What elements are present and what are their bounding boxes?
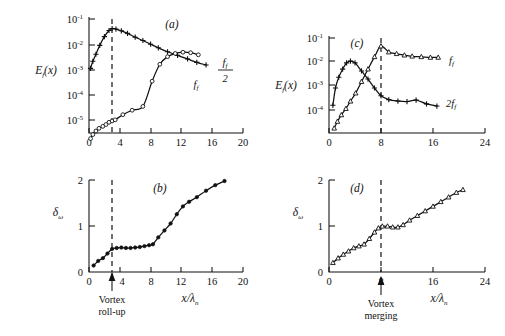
panel-a-ytick-1: 10-2: [67, 39, 84, 51]
panel-b-ytick-1: 1: [78, 221, 83, 232]
panel-d-ylabel: δω: [293, 206, 303, 221]
panel-b-ylabel: δω: [53, 206, 63, 221]
panel-c-x-ticks: [329, 128, 485, 133]
panel-b-xtick-3: 12: [176, 276, 187, 287]
panel-c-ylabel: Ef(x): [274, 79, 297, 94]
panel-a-ytick-4: 10-5: [67, 114, 84, 126]
panel-d-y-ticks: [329, 180, 335, 226]
panel-b-annotation-line2: roll-up: [98, 306, 125, 317]
panel-b-xtick-5: 20: [238, 276, 249, 287]
panel-b-ytick-0: 0: [78, 267, 83, 278]
panel-a-xtick-5: 20: [238, 137, 249, 148]
panel-a-svg: 10-1 10-2 10-3 10-4 10-5 Ef(x) 0 4 8 12 …: [0, 0, 253, 160]
panel-c-ytick-3: 10-4: [307, 104, 324, 116]
panel-b-svg: 2 1 0 δω 0 4 8 12 16 20 (b): [0, 160, 253, 336]
panel-b-ytick-2: 2: [78, 175, 83, 186]
panel-d-annotation-line1: Vortex: [368, 298, 394, 309]
panel-a-label-ff-over-2: ff 2: [218, 57, 233, 84]
panel-d-xtick-0: 0: [326, 276, 331, 287]
panel-a-id: (a): [165, 18, 179, 31]
figure-root: 10-1 10-2 10-3 10-4 10-5 Ef(x) 0 4 8 12 …: [0, 0, 505, 336]
panel-d-annotation-line2: merging: [364, 310, 397, 321]
panel-b-xlabel: x/λn: [181, 292, 199, 307]
panel-d-ytick-0: 0: [318, 267, 323, 278]
panel-c-ytick-0: 10-1: [307, 32, 324, 44]
panel-c-label-ff: ff: [449, 55, 455, 68]
panel-c-label-2ff: 2ff: [446, 98, 457, 111]
panel-c-ytick-1: 10-2: [307, 55, 324, 67]
panel-b-y-ticks: [89, 180, 95, 226]
panel-b-id: (b): [153, 182, 167, 195]
panel-a-xtick-3: 12: [176, 137, 187, 148]
panel-a-xtick-1: 4: [117, 137, 123, 148]
panel-d-svg: 2 1 0 δω 0 8 16 24 (d) Vo: [253, 160, 505, 336]
panel-d-xlabel: x/λn: [430, 292, 448, 307]
panel-b-annotation-line1: Vortex: [99, 294, 125, 305]
panel-d-series: [331, 187, 466, 264]
panel-b-xtick-4: 16: [207, 276, 218, 287]
panel-a-ylabel: Ef(x): [34, 64, 57, 79]
panel-a: 10-1 10-2 10-3 10-4 10-5 Ef(x) 0 4 8 12 …: [0, 0, 253, 160]
panel-d-id: (d): [350, 182, 364, 195]
panel-a-ytick-0: 10-1: [67, 13, 84, 25]
panel-c-series-2ff: [330, 58, 439, 108]
panel-a-y-ticks: [89, 19, 95, 120]
panel-a-series-ff2: [88, 26, 209, 71]
panel-a-series-ff: [89, 50, 201, 140]
panel-b: 2 1 0 δω 0 4 8 12 16 20 (b): [0, 160, 253, 336]
panel-b-xtick-1: 4: [119, 276, 125, 287]
panel-c-xtick-2: 16: [428, 137, 439, 148]
panel-a-ytick-2: 10-3: [67, 64, 84, 76]
panel-b-xtick-0: 0: [86, 276, 91, 287]
panel-b-vortex-arrow-icon: [109, 272, 116, 291]
panel-c-xtick-1: 8: [378, 137, 383, 148]
panel-d-ytick-2: 2: [318, 175, 323, 186]
panel-c-xtick-0: 0: [326, 137, 331, 148]
panel-c-xtick-3: 24: [480, 137, 491, 148]
panel-d: 2 1 0 δω 0 8 16 24 (d) Vo: [253, 160, 505, 336]
panel-c-axes: [329, 36, 485, 133]
panel-a-label-ff: ff: [194, 79, 200, 92]
panel-d-ytick-1: 1: [318, 221, 323, 232]
panel-d-xtick-3: 24: [480, 276, 491, 287]
panel-d-x-ticks: [329, 267, 485, 272]
panel-d-xtick-2: 16: [428, 276, 439, 287]
panel-a-ytick-3: 10-4: [67, 89, 84, 101]
panel-b-xtick-2: 8: [148, 276, 153, 287]
panel-c-series-ff: [332, 44, 441, 130]
panel-c-svg: 10-1 10-2 10-3 10-4 Ef(x) 0 8 16 24 (c): [253, 0, 505, 160]
panel-a-xtick-4: 16: [207, 137, 218, 148]
panel-a-xtick-2: 8: [148, 137, 153, 148]
svg-text:2: 2: [222, 73, 228, 84]
panel-c: 10-1 10-2 10-3 10-4 Ef(x) 0 8 16 24 (c): [253, 0, 505, 160]
svg-text:ff: ff: [223, 57, 229, 70]
panel-c-id: (c): [351, 37, 364, 50]
panel-c-ytick-2: 10-3: [307, 79, 324, 91]
